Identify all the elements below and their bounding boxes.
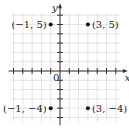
data-point: (3, −4): [86, 103, 127, 114]
point-dot-icon: [49, 106, 53, 110]
point-label: (−1, 5): [11, 19, 46, 30]
y-arrow-icon: [58, 3, 62, 8]
data-point: (−1, 5): [11, 19, 52, 30]
coordinate-plane: xy0 (−1, 5)(3, 5)(−1, −4)(3, −4): [0, 0, 129, 133]
point-dot-icon: [49, 23, 53, 27]
point-dot-icon: [86, 106, 90, 110]
y-axis-label: y: [51, 2, 58, 13]
point-label: (3, −4): [92, 103, 127, 114]
x-axis-label: x: [125, 72, 129, 83]
point-dot-icon: [86, 23, 90, 27]
data-point: (−1, −4): [3, 103, 53, 114]
data-points: (−1, 5)(3, 5)(−1, −4)(3, −4): [3, 19, 127, 114]
point-label: (−1, −4): [3, 103, 47, 114]
point-label: (3, 5): [92, 19, 119, 30]
origin-label: 0: [53, 72, 59, 83]
